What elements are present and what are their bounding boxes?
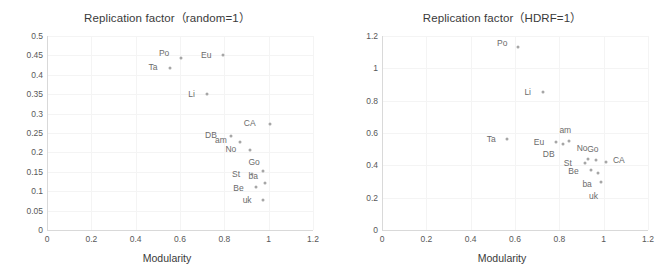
scatter-point-label: am xyxy=(559,125,571,135)
scatter-point-label: Be xyxy=(233,183,243,193)
y-axis-tick-label: 0 xyxy=(373,225,378,235)
scatter-point-label: Li xyxy=(188,89,195,99)
y-axis-line xyxy=(47,36,48,230)
scatter-point xyxy=(262,170,265,173)
scatter-point xyxy=(262,198,265,201)
x-axis-tick-label: 0.2 xyxy=(85,234,97,244)
scatter-point-label: No xyxy=(577,143,588,153)
scatter-point xyxy=(604,161,607,164)
scatter-point-label: Eu xyxy=(534,137,544,147)
gridline-vertical xyxy=(136,36,137,230)
y-axis-tick-label: 0.3 xyxy=(31,109,43,119)
scatter-point-label: CA xyxy=(244,118,256,128)
gridline-vertical xyxy=(269,36,270,230)
scatter-point-label: Be xyxy=(568,166,578,176)
scatter-point xyxy=(561,143,564,146)
x-axis-line xyxy=(382,230,648,231)
scatter-point-label: ba xyxy=(582,179,591,189)
y-axis-tick-label: 0.6 xyxy=(366,128,378,138)
scatter-point xyxy=(180,57,183,60)
gridline-vertical xyxy=(515,36,516,230)
figure-container: Replication factor（random=1） 00.050.10.1… xyxy=(0,0,669,278)
gridline-vertical xyxy=(471,36,472,230)
x-axis-tick-label: 1 xyxy=(601,234,606,244)
scatter-point-label: Po xyxy=(159,48,169,58)
x-axis-tick-label: 0 xyxy=(380,234,385,244)
y-axis-tick-label: 0.1 xyxy=(31,186,43,196)
chart-title-left: Replication factor（random=1） xyxy=(0,9,334,25)
gridline-vertical xyxy=(91,36,92,230)
scatter-point xyxy=(255,185,258,188)
scatter-point xyxy=(248,148,251,151)
gridline-vertical xyxy=(313,36,314,230)
y-axis-tick-label: 0 xyxy=(38,225,43,235)
scatter-point xyxy=(229,134,232,137)
scatter-point xyxy=(583,161,586,164)
y-axis-tick-label: 0.25 xyxy=(26,128,43,138)
scatter-point xyxy=(555,140,558,143)
y-axis-tick-label: 0.2 xyxy=(366,193,378,203)
x-axis-tick-label: 0.8 xyxy=(553,234,565,244)
scatter-point-label: CA xyxy=(613,155,625,165)
scatter-point-label: Go xyxy=(587,144,598,154)
scatter-point xyxy=(597,172,600,175)
scatter-point xyxy=(506,137,509,140)
scatter-point xyxy=(205,93,208,96)
chart-panel-left: Replication factor（random=1） 00.050.10.1… xyxy=(0,0,334,278)
scatter-point-label: uk xyxy=(243,195,252,205)
scatter-point xyxy=(594,159,597,162)
scatter-point xyxy=(169,66,172,69)
y-axis-tick-label: 0.35 xyxy=(26,89,43,99)
y-axis-tick-label: 1.2 xyxy=(366,31,378,41)
x-axis-label-right: Modularity xyxy=(335,252,669,264)
y-axis-tick-label: 0.05 xyxy=(26,206,43,216)
scatter-point xyxy=(587,157,590,160)
scatter-point-label: DB xyxy=(543,149,555,159)
y-axis-tick-label: 0.8 xyxy=(366,96,378,106)
x-axis-tick-label: 0.6 xyxy=(174,234,186,244)
y-axis-tick-label: 0.5 xyxy=(31,31,43,41)
scatter-point-label: Li xyxy=(524,87,531,97)
y-axis-tick-label: 0.4 xyxy=(31,70,43,80)
scatter-point-label: No xyxy=(225,144,236,154)
scatter-point-label: Eu xyxy=(201,50,211,60)
scatter-point-label: Ta xyxy=(487,134,496,144)
scatter-point-label: Go xyxy=(248,157,259,167)
y-axis-tick-label: 0.15 xyxy=(26,167,43,177)
scatter-point-label: ba xyxy=(249,171,258,181)
y-axis-tick-label: 0.45 xyxy=(26,50,43,60)
scatter-point-label: uk xyxy=(589,191,598,201)
gridline-vertical xyxy=(224,36,225,230)
gridline-vertical xyxy=(648,36,649,230)
plot-area-right: 00.20.40.60.811.200.20.40.60.811.2PoLiam… xyxy=(382,36,648,230)
plot-area-left: 00.050.10.150.20.250.30.350.40.450.500.2… xyxy=(47,36,313,230)
x-axis-line xyxy=(47,230,313,231)
x-axis-label-left: Modularity xyxy=(0,252,334,264)
gridline-vertical xyxy=(180,36,181,230)
scatter-point xyxy=(264,182,267,185)
scatter-point-label: Po xyxy=(497,38,507,48)
x-axis-tick-label: 1 xyxy=(266,234,271,244)
x-axis-tick-label: 1.2 xyxy=(642,234,654,244)
scatter-point xyxy=(541,90,544,93)
scatter-point xyxy=(238,141,241,144)
y-axis-tick-label: 0.2 xyxy=(31,147,43,157)
gridline-vertical xyxy=(426,36,427,230)
scatter-point xyxy=(222,54,225,57)
x-axis-tick-label: 1.2 xyxy=(307,234,319,244)
chart-title-right: Replication factor（HDRF=1） xyxy=(335,9,669,25)
scatter-point xyxy=(600,181,603,184)
x-axis-tick-label: 0 xyxy=(45,234,50,244)
x-axis-tick-label: 0.8 xyxy=(218,234,230,244)
y-axis-line xyxy=(382,36,383,230)
x-axis-tick-label: 0.2 xyxy=(420,234,432,244)
y-axis-tick-label: 0.4 xyxy=(366,160,378,170)
scatter-point xyxy=(568,140,571,143)
scatter-point xyxy=(590,169,593,172)
x-axis-tick-label: 0.4 xyxy=(465,234,477,244)
scatter-point xyxy=(268,123,271,126)
chart-panel-right: Replication factor（HDRF=1） 00.20.40.60.8… xyxy=(335,0,669,278)
scatter-point-label: St xyxy=(232,169,240,179)
x-axis-tick-label: 0.4 xyxy=(130,234,142,244)
scatter-point-label: Ta xyxy=(149,62,158,72)
